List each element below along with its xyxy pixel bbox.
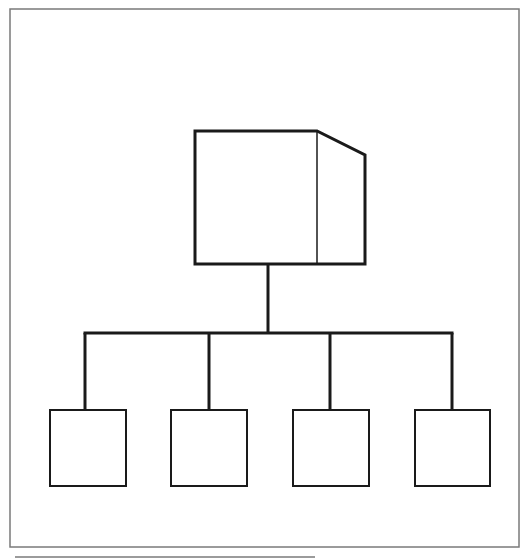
diagram-frame — [10, 9, 519, 547]
child-box-3 — [293, 410, 369, 486]
parent-box-outline — [195, 131, 365, 264]
child-node — [171, 333, 247, 486]
child-node — [415, 333, 490, 486]
child-box-2 — [171, 410, 247, 486]
child-nodes — [50, 333, 490, 486]
child-box-4 — [415, 410, 490, 486]
child-node — [50, 333, 126, 486]
hierarchy-diagram — [0, 0, 529, 560]
child-node — [293, 333, 369, 486]
child-box-1 — [50, 410, 126, 486]
parent-node — [195, 131, 365, 264]
